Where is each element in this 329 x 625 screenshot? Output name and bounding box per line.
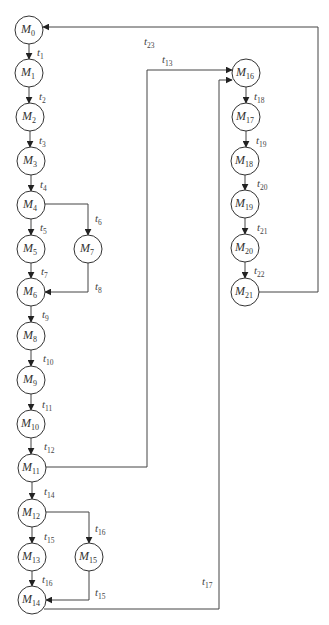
transition-label: t16 (42, 573, 53, 588)
edge-m19-m20: t21 (245, 218, 268, 236)
edge-m20-m21: t22 (245, 262, 265, 279)
transition-label: t10 (43, 352, 54, 367)
edge-m17-m18: t19 (246, 131, 267, 149)
state-node-m5: M5 (17, 235, 45, 263)
transition-label: t22 (254, 264, 265, 279)
transition-label: t1 (37, 46, 44, 61)
edge-m7-m6: t8 (45, 263, 102, 295)
transition-label: t4 (40, 178, 47, 193)
edge-m3-m4: t4 (31, 175, 47, 193)
state-node-m9: M9 (17, 366, 45, 394)
transition-label: t7 (41, 265, 48, 280)
edge-m6-m8: t9 (31, 306, 49, 323)
transition-label: t23 (144, 35, 155, 50)
edge-m8-m9: t10 (31, 350, 54, 367)
edge-m16-m17: t18 (246, 87, 265, 105)
reachability-graph: t1t2t3t4t5t6t7t8t9t10t11t12t13t14t15t16t… (0, 0, 329, 625)
transition-label: t19 (256, 134, 267, 149)
state-node-m10: M10 (17, 410, 45, 438)
edge-m1-m2: t2 (29, 87, 46, 105)
transition-label: t15 (95, 586, 106, 601)
transition-label: t9 (42, 308, 49, 323)
transition-label: t6 (95, 212, 102, 227)
state-node-m0: M0 (15, 16, 43, 44)
edge-m0-m1: t1 (29, 44, 44, 61)
edge-m10-m11: t12 (31, 438, 55, 455)
state-node-m14: M14 (18, 586, 46, 614)
edge-m13-m14: t16 (32, 571, 53, 588)
edges-layer: t1t2t3t4t5t6t7t8t9t10t11t12t13t14t15t16t… (29, 27, 318, 609)
state-node-m12: M12 (18, 499, 46, 527)
state-node-m8: M8 (17, 322, 45, 350)
state-node-m16: M16 (232, 59, 260, 87)
state-node-m18: M18 (231, 147, 259, 175)
state-node-m15: M15 (75, 543, 103, 571)
transition-label: t17 (202, 575, 213, 590)
edge-m12-m13: t15 (32, 527, 55, 545)
nodes-layer: M0M1M2M3M4M5M7M6M8M9M10M11M12M13M15M14M1… (15, 16, 260, 614)
state-node-m11: M11 (18, 454, 46, 482)
state-node-m1: M1 (15, 59, 43, 87)
transition-label: t21 (257, 221, 268, 236)
edge-m2-m3: t3 (30, 131, 46, 149)
edge-m18-m19: t20 (245, 175, 268, 192)
edge-m14-m16: t17 (44, 80, 232, 609)
transition-label: t16 (95, 522, 106, 537)
transition-label: t12 (44, 440, 55, 455)
edge-m4-m7: t6 (45, 204, 102, 235)
transition-label: t2 (39, 90, 46, 105)
transition-label: t15 (44, 530, 55, 545)
transition-label: t8 (95, 280, 102, 295)
state-node-m2: M2 (16, 103, 44, 131)
state-node-m17: M17 (232, 103, 260, 131)
transition-label: t20 (257, 177, 268, 192)
edge-line (44, 80, 232, 609)
edge-m5-m6: t7 (31, 263, 48, 280)
transition-label: t13 (162, 53, 173, 68)
edge-m11-m16: t13 (46, 53, 232, 467)
transition-label: t5 (40, 221, 47, 236)
transition-label: t3 (39, 134, 46, 149)
state-node-m3: M3 (17, 147, 45, 175)
state-node-m6: M6 (17, 278, 45, 306)
edge-line (46, 70, 232, 467)
state-node-m21: M21 (231, 278, 259, 306)
state-node-m20: M20 (231, 234, 259, 262)
edge-m15-m14: t15 (46, 571, 106, 601)
transition-label: t18 (254, 90, 265, 105)
transition-label: t14 (44, 485, 55, 500)
state-node-m13: M13 (18, 543, 46, 571)
edge-line (45, 204, 88, 235)
state-node-m19: M19 (231, 190, 259, 218)
edge-m4-m5: t5 (31, 219, 47, 236)
edge-m12-m15: t16 (46, 512, 106, 543)
state-node-m4: M4 (17, 191, 45, 219)
edge-m11-m12: t14 (32, 482, 55, 500)
state-node-m7: M7 (74, 235, 102, 263)
edge-line (45, 263, 88, 292)
transition-label: t11 (42, 398, 53, 413)
